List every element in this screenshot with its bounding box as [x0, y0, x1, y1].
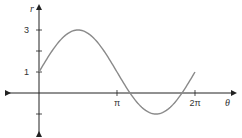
y-tick-label: 3 [24, 25, 29, 35]
y-axis-label: r [30, 3, 34, 14]
y-tick-label: 1 [24, 67, 29, 77]
x-tick-label: π [114, 98, 120, 108]
polar-graph-cartesian-plot: 13 π2π r θ [0, 0, 242, 138]
x-tick-label: 2π [189, 98, 200, 108]
x-axis-label: θ [225, 97, 230, 108]
